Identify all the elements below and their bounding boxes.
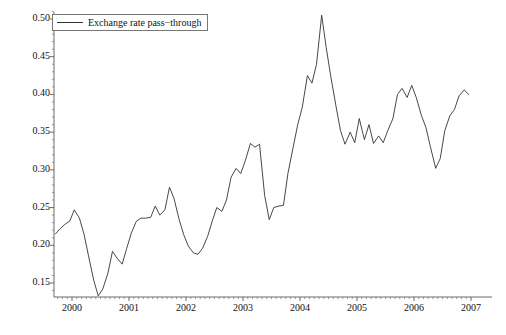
chart-legend: Exchange rate pass−through: [52, 14, 208, 31]
x-axis-tick-label: 2004: [280, 302, 320, 313]
exchange-rate-pass-through-chart: Exchange rate pass−through 0.150.200.250…: [0, 0, 506, 335]
x-axis-tick-label: 2006: [394, 302, 434, 313]
y-axis-tick-label: 0.35: [18, 125, 50, 136]
x-axis-tick-label: 2001: [109, 302, 149, 313]
x-axis-tick-label: 2003: [223, 302, 263, 313]
x-axis-tick-label: 2000: [52, 302, 92, 313]
y-axis-tick-label: 0.45: [18, 50, 50, 61]
y-axis-tick-label: 0.30: [18, 163, 50, 174]
x-axis-tick-label: 2005: [337, 302, 377, 313]
legend-label: Exchange rate pass−through: [88, 17, 201, 28]
y-axis-tick-label: 0.20: [18, 238, 50, 249]
y-axis-tick-label: 0.50: [18, 12, 50, 23]
x-axis-tick-label: 2002: [166, 302, 206, 313]
series-line-exchange-rate-pass-through: [55, 15, 468, 296]
legend-line-swatch: [57, 22, 83, 23]
x-axis-tick-label: 2007: [451, 302, 491, 313]
y-axis-tick-label: 0.25: [18, 201, 50, 212]
y-axis-tick-label: 0.15: [18, 276, 50, 287]
plot-area: [0, 0, 506, 335]
y-axis-tick-label: 0.40: [18, 87, 50, 98]
